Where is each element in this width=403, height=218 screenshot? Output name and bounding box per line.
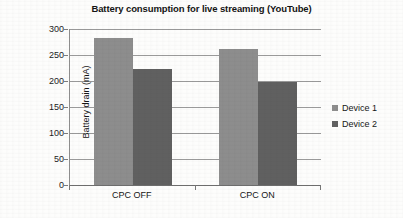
y-axis-tick-label: 150 [49,102,64,112]
gridline [70,29,321,30]
y-axis-tick-label: 50 [54,154,64,164]
y-axis-tick-mark [64,107,68,108]
legend-swatch-icon [332,121,338,127]
x-axis-tick-mark [320,185,321,190]
bar [258,82,297,185]
bar-chart: Battery consumption for live streaming (… [0,0,403,218]
x-axis-category-label: CPC ON [207,190,307,200]
bar [219,49,258,185]
y-axis-tick-label: 250 [49,50,64,60]
y-axis-tick-mark [64,185,68,186]
y-axis-tick-mark [64,55,68,56]
legend-item: Device 1 [332,100,398,116]
x-axis-baseline [70,185,321,186]
legend-swatch-icon [332,105,338,111]
legend-item-label: Device 1 [342,103,377,113]
chart-legend: Device 1Device 2 [332,100,398,132]
bar [133,69,172,185]
legend-item-label: Device 2 [342,119,377,129]
y-axis-tick-label: 200 [49,76,64,86]
bar [94,38,133,185]
legend-item: Device 2 [332,116,398,132]
y-axis-tick-mark [64,133,68,134]
y-axis-tick-mark [64,81,68,82]
y-axis-title: Battery drain (mA) [81,42,91,162]
y-axis-tick-mark [64,29,68,30]
y-axis-tick-label: 100 [49,128,64,138]
y-axis-tick-label: 300 [49,24,64,34]
y-axis-tick-mark [64,159,68,160]
y-axis-tick-labels: 050100150200250300 [28,29,64,185]
x-axis-tick-mark [195,185,196,190]
chart-title: Battery consumption for live streaming (… [0,3,403,14]
x-axis-tick-mark [69,185,70,190]
x-axis-category-label: CPC OFF [82,190,182,200]
plot-area: Battery drain (mA) [69,29,320,185]
